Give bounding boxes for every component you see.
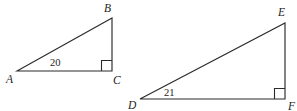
vertex-label-e: E	[277, 6, 285, 18]
vertex-label-f: F	[287, 100, 296, 111]
right-angle-mark-c	[102, 61, 113, 72]
vertex-label-a: A	[5, 73, 14, 85]
vertex-label-b: B	[104, 2, 111, 14]
triangle-abc-outline	[17, 18, 112, 71]
triangle-def: D E F 21	[127, 6, 296, 111]
triangle-def-outline	[140, 23, 285, 99]
right-angle-mark-f	[275, 89, 286, 100]
geometry-canvas: A B C 20 D E F 21	[0, 0, 297, 111]
geometry-figure: A B C 20 D E F 21	[0, 0, 297, 111]
angle-measure-a: 20	[50, 57, 61, 68]
vertex-label-c: C	[113, 74, 121, 86]
angle-measure-d: 21	[164, 87, 175, 98]
vertex-label-d: D	[127, 99, 137, 111]
triangle-abc: A B C 20	[5, 2, 121, 86]
